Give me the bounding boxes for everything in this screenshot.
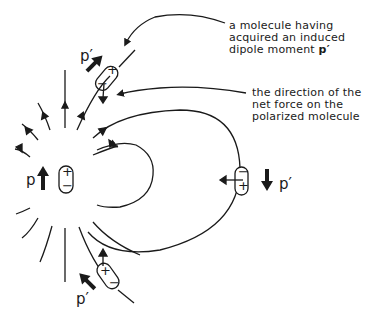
field-line-right-horizontal: [93, 140, 118, 155]
field-line-upper-left-2: [22, 124, 38, 140]
upper-molecule-minus: −: [97, 76, 108, 91]
source-dipole-minus: −: [62, 178, 73, 193]
annotation-net-force-line3: polarized molecule: [252, 111, 361, 123]
lower-molecule-label: p′: [76, 290, 89, 308]
right-molecule-plus: +: [238, 178, 249, 193]
lower-molecule-minus: −: [109, 275, 120, 290]
right-molecule-dipole-arrow: [261, 169, 273, 191]
field-line-through-lower-molecule-b: [118, 290, 134, 303]
field-line-lower-right: [93, 222, 140, 255]
annotation-arrow-induced-dipole: [126, 15, 225, 43]
right-molecule-label: p′: [279, 175, 292, 193]
right-molecule-minus: −: [238, 164, 249, 179]
source-dipole-arrow: [37, 166, 49, 190]
field-line-upper-left-3: [15, 144, 30, 157]
annotation-induced-dipole-symbol: p′: [319, 43, 330, 56]
field-line-lower-left-1: [40, 226, 52, 262]
annotation-induced-dipole-text: dipole moment: [229, 43, 319, 56]
annotation-arrow-net-force: [120, 87, 246, 94]
field-line-lower-left-3: [16, 208, 30, 214]
field-line-lower-left-2: [22, 218, 38, 238]
field-line-outer-loop: [88, 110, 240, 252]
field-line-vertical-up: [62, 70, 68, 128]
upper-molecule-label: p′: [80, 47, 93, 65]
annotation-induced-dipole: a molecule having acquired an induced di…: [229, 20, 345, 56]
upper-molecule-plus: +: [107, 62, 118, 77]
source-dipole-label: p: [26, 171, 36, 189]
field-line-upper-left-1: [38, 103, 50, 130]
annotation-induced-dipole-line3: dipole moment p′: [229, 44, 345, 56]
source-dipole-plus: +: [62, 164, 73, 179]
annotation-net-force: the direction of the net force on the po…: [252, 87, 361, 123]
